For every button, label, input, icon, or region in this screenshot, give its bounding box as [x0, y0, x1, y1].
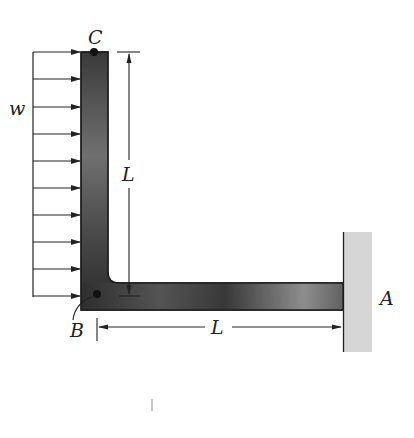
l-frame-member — [81, 52, 343, 310]
label-c: C — [88, 26, 103, 48]
label-horizontal-l: L — [210, 316, 224, 338]
label-w: w — [9, 97, 25, 119]
label-vertical-l: L — [121, 163, 135, 185]
wall-support — [343, 232, 372, 352]
frame-diagram: C w L B L A — [0, 0, 414, 438]
point-c-dot — [90, 48, 98, 56]
label-a: A — [378, 287, 394, 309]
distributed-load-w — [33, 52, 80, 297]
label-b: B — [69, 319, 84, 341]
